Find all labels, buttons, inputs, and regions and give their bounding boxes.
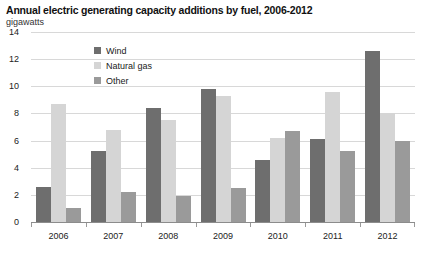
x-axis-tick-label: 2008 [158,231,178,241]
x-axis-tick-2007: 2007 [86,223,141,245]
x-tick-mark [31,223,32,227]
x-tick-mark [86,223,87,227]
x-axis-tick-2008: 2008 [141,223,196,245]
x-axis-tick-label: 2011 [323,231,342,241]
bar-natural-gas-2006[interactable] [51,104,66,222]
bar-natural-gas-2007[interactable] [106,130,121,222]
x-tick-mark [196,223,197,227]
x-axis-tick-label: 2007 [103,231,123,241]
x-axis-tick-2012: 2012 [360,223,415,245]
y-axis-tick-label: 12 [0,55,19,64]
bar-group-2009 [196,32,251,222]
legend-item-wind[interactable]: Wind [94,45,152,56]
bar-natural-gas-2011[interactable] [325,92,340,222]
bar-other-2009[interactable] [231,188,246,222]
page-title: Annual electric generating capacity addi… [6,4,419,16]
bar-natural-gas-2012[interactable] [380,113,395,222]
x-tick-mark [141,223,142,227]
bar-wind-2009[interactable] [201,89,216,222]
bar-other-2008[interactable] [176,196,191,222]
x-tick-mark [305,223,306,227]
legend-item-natural-gas[interactable]: Natural gas [94,60,152,71]
legend-item-other[interactable]: Other [94,75,152,86]
x-tick-mark [414,223,415,227]
bar-group-2012 [360,32,415,222]
x-tick-mark [250,223,251,227]
legend-label: Other [106,76,129,86]
bars-layer [31,32,415,222]
x-axis-tick-label: 2006 [48,231,68,241]
x-axis-tick-label: 2012 [378,231,398,241]
x-axis-tick-2009: 2009 [196,223,251,245]
x-tick-mark [360,223,361,227]
x-axis-tick-label: 2009 [213,231,233,241]
bar-other-2006[interactable] [66,208,81,222]
bar-natural-gas-2010[interactable] [270,138,285,222]
x-axis-tick-label: 2010 [268,231,288,241]
chart-units-label: gigawatts [6,17,419,28]
y-axis-tick-label: 2 [0,191,19,200]
x-axis-tick-2011: 2011 [305,223,360,245]
legend-swatch-icon [94,77,101,84]
bar-other-2011[interactable] [340,151,355,222]
bar-other-2012[interactable] [395,141,410,222]
bar-wind-2012[interactable] [365,51,380,222]
bar-wind-2010[interactable] [255,160,270,222]
bar-natural-gas-2008[interactable] [161,120,176,222]
bar-other-2007[interactable] [121,192,136,222]
plot-area: 14121086420 [31,32,415,222]
y-axis-tick-label: 14 [0,28,19,37]
x-axis: 2006200720082009201020112012 [31,223,415,245]
legend-label: Wind [106,46,127,56]
chart-legend: WindNatural gasOther [94,45,152,86]
chart-header: Annual electric generating capacity addi… [6,4,419,28]
bar-group-2006 [31,32,86,222]
bar-natural-gas-2009[interactable] [216,96,231,222]
y-axis-tick-label: 4 [0,164,19,173]
bar-wind-2011[interactable] [310,139,325,222]
bar-wind-2006[interactable] [36,187,51,222]
legend-swatch-icon [94,62,101,69]
x-axis-tick-2006: 2006 [31,223,86,245]
y-axis-tick-label: 8 [0,109,19,118]
legend-label: Natural gas [106,61,152,71]
x-axis-tick-2010: 2010 [250,223,305,245]
legend-swatch-icon [94,47,101,54]
y-axis-tick-label: 0 [0,218,19,227]
bar-other-2010[interactable] [285,131,300,222]
bar-wind-2008[interactable] [146,108,161,222]
bar-group-2010 [250,32,305,222]
y-axis-tick-label: 10 [0,82,19,91]
bar-group-2011 [305,32,360,222]
y-axis-tick-label: 6 [0,137,19,146]
bar-wind-2007[interactable] [91,151,106,222]
